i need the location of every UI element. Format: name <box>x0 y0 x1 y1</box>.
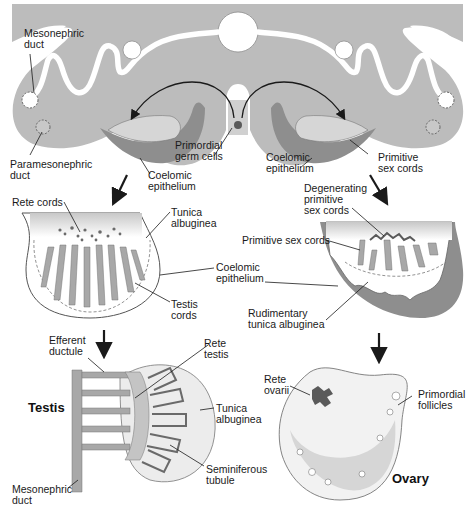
label-rudimentary-tunica-albuginea: Rudimentary tunica albuginea <box>248 308 324 330</box>
label-primitive-sex-cords-ovary: Primitive sex cords <box>242 235 330 246</box>
final-testis-section <box>68 345 215 492</box>
label-coelomic-epithelium-left: Coelomic epithelium <box>148 170 196 192</box>
right-paramesonephric-duct-section <box>426 120 440 134</box>
label-tunica-albuginea-2: Tunica albuginea <box>216 403 262 425</box>
label-efferent-ductule: Efferent ductule <box>49 335 86 357</box>
label-rete-ovarii: Rete ovarii <box>264 374 289 396</box>
label-degenerating-primitive-sex-cords: Degenerating primitive sex cords <box>304 183 367 216</box>
label-primordial-follicles: Primordial follicles <box>418 389 465 411</box>
label-rete-testis: Rete testis <box>204 338 229 360</box>
testis-title: Testis <box>28 400 65 415</box>
label-primitive-sex-cords-top: Primitive sex cords <box>378 152 423 174</box>
left-mesonephric-duct-section <box>22 92 38 108</box>
label-mesonephric-duct-bottom: Mesonephric duct <box>12 484 72 506</box>
label-rete-cords: Rete cords <box>12 197 63 208</box>
label-coelomic-epithelium-mid: Coelomic epithelium <box>216 262 264 284</box>
dorsal-aorta <box>218 12 258 52</box>
label-tunica-albuginea-1: Tunica albuginea <box>171 207 217 229</box>
diagram-artwork <box>0 0 476 513</box>
left-glomerulus <box>123 41 141 59</box>
developing-ovary-section <box>265 208 463 320</box>
primordial-germ-cells-dot <box>234 121 242 129</box>
label-coelomic-epithelium-right: Coelomic epithelium <box>266 152 314 174</box>
label-primordial-germ-cells: Primordial germ cells <box>175 140 223 162</box>
label-mesonephric-duct-top: Mesonephric duct <box>24 28 84 50</box>
right-mesonephric-duct-section <box>438 92 454 108</box>
label-paramesonephric-duct: Paramesonephric duct <box>10 159 92 181</box>
right-glomerulus <box>335 41 353 59</box>
ovary-title: Ovary <box>392 471 429 486</box>
gonad-differentiation-diagram: Mesonephric duct Paramesonephric duct Pr… <box>0 0 476 513</box>
label-seminiferous-tubule: Seminiferous tubule <box>206 464 267 486</box>
mesonephric-duct-vertical <box>72 370 82 492</box>
to-testis-arrow <box>114 175 127 202</box>
left-paramesonephric-duct-section <box>36 120 50 134</box>
label-testis-cords: Testis cords <box>171 299 198 321</box>
to-ovary-arrow <box>370 175 386 202</box>
